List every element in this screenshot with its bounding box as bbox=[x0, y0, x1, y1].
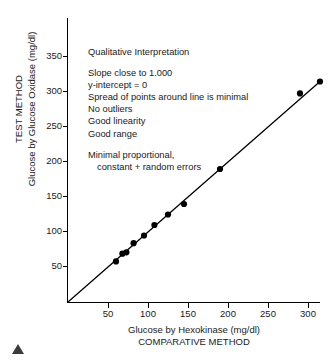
data-point bbox=[165, 211, 171, 217]
data-point bbox=[141, 232, 147, 238]
data-point bbox=[297, 90, 303, 96]
data-point bbox=[317, 78, 323, 84]
scatter-plot-figure: 350 300 250 200 150 100 50 50 100 150 20… bbox=[0, 0, 331, 362]
data-point bbox=[151, 222, 157, 228]
corner-triangle-marker bbox=[12, 344, 24, 354]
data-point bbox=[217, 166, 223, 172]
plot-data-layer bbox=[0, 0, 331, 362]
data-point bbox=[123, 249, 129, 255]
data-point bbox=[131, 240, 137, 246]
data-point bbox=[113, 258, 119, 264]
data-point bbox=[181, 201, 187, 207]
regression-line bbox=[68, 82, 320, 303]
